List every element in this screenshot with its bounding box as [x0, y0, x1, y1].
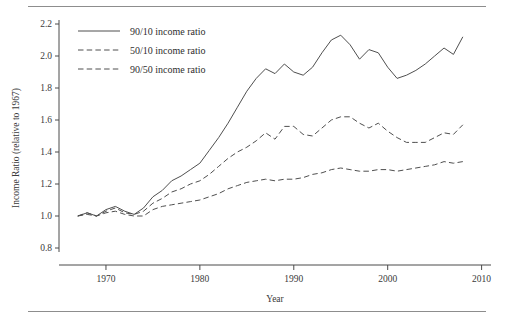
x-tick-label-1: 1980: [190, 274, 209, 284]
figure-page: Income Ratio (relative to 1967) 0.81.01.…: [0, 0, 506, 321]
y-tick-label-5: 1.8: [40, 83, 52, 93]
x-tick-label-3: 2000: [378, 274, 397, 284]
series-line-1: [78, 117, 463, 216]
income-ratio-chart: Income Ratio (relative to 1967) 0.81.01.…: [0, 0, 506, 321]
x-axis-ticks: 19701980199020002010: [96, 265, 491, 284]
legend-label-1: 50/10 income ratio: [130, 45, 206, 56]
y-axis-title: Income Ratio (relative to 1967): [11, 88, 22, 208]
series-line-0: [78, 35, 463, 216]
series-line-2: [78, 162, 463, 216]
y-tick-label-1: 1.0: [40, 211, 52, 221]
x-tick-label-4: 2010: [472, 274, 491, 284]
chart-svg: Income Ratio (relative to 1967) 0.81.01.…: [0, 0, 506, 321]
y-tick-label-2: 1.2: [40, 179, 52, 189]
y-tick-label-3: 1.4: [40, 147, 52, 157]
series-group: [78, 35, 463, 216]
x-tick-label-0: 1970: [96, 274, 115, 284]
y-axis-ticks: 0.81.01.21.41.61.82.02.2: [40, 19, 59, 253]
y-tick-label-0: 0.8: [40, 243, 52, 253]
x-tick-label-2: 1990: [284, 274, 303, 284]
y-tick-label-7: 2.2: [40, 19, 52, 29]
y-tick-label-4: 1.6: [40, 115, 52, 125]
chart-legend: 90/10 income ratio50/10 income ratio90/5…: [78, 26, 206, 75]
legend-label-2: 90/50 income ratio: [130, 64, 206, 75]
y-tick-label-6: 2.0: [40, 51, 52, 61]
x-axis-title: Year: [266, 294, 284, 304]
legend-label-0: 90/10 income ratio: [130, 26, 206, 37]
